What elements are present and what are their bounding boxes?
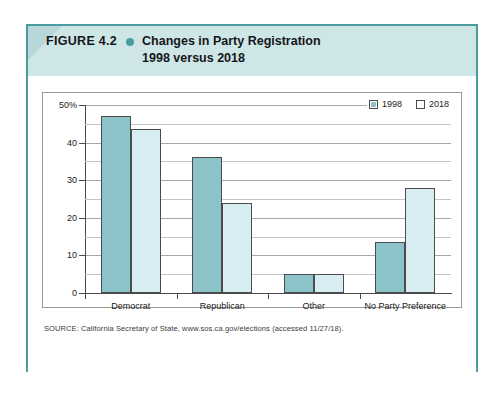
bar-other-2018: [314, 274, 344, 293]
x-axis-separator-tick: [85, 293, 86, 299]
source-note: SOURCE: California Secretary of State, w…: [44, 324, 344, 333]
y-axis-tick-label: 50%: [43, 100, 77, 110]
gridline-minor: [85, 124, 451, 125]
x-axis-category-label: Democrat: [111, 301, 150, 311]
bar-democrat-2018: [131, 129, 161, 293]
figure-body: 01020304050% 19982018 DemocratRepublican…: [28, 76, 476, 374]
y-axis-tick-label: 20: [43, 213, 77, 223]
figure-header: FIGURE 4.2 Changes in Party Registration…: [28, 26, 476, 76]
chart-plot-area: [85, 105, 451, 293]
chart-legend: 19982018: [367, 98, 451, 110]
figure-heading: FIGURE 4.2 Changes in Party Registration…: [46, 33, 470, 67]
y-axis-tick-label: 10: [43, 250, 77, 260]
y-axis-labels: 01020304050%: [43, 93, 77, 309]
x-axis-category-label: Other: [302, 301, 325, 311]
y-axis-tick-label: 40: [43, 138, 77, 148]
x-axis-category-label: Republican: [200, 301, 245, 311]
x-axis-separator-tick: [360, 293, 361, 299]
legend-label: 1998: [382, 99, 402, 109]
y-axis-tick-mark: [79, 105, 86, 106]
bar-other-1998: [284, 274, 314, 293]
figure-number-label: FIGURE 4.2: [46, 33, 117, 50]
chart-plot-frame: 01020304050% 19982018 DemocratRepublican…: [42, 92, 462, 308]
y-axis-tick-mark: [79, 255, 86, 256]
legend-label: 2018: [429, 99, 449, 109]
legend-swatch-icon: [416, 100, 425, 109]
x-axis-category-label: No Party Preference: [364, 301, 446, 311]
figure-title: Changes in Party Registration 1998 versu…: [142, 33, 321, 67]
figure-card: FIGURE 4.2 Changes in Party Registration…: [26, 24, 478, 372]
y-axis-tick-label: 30: [43, 175, 77, 185]
bar-republican-2018: [222, 203, 252, 293]
y-axis-tick-mark: [79, 180, 86, 181]
y-axis-tick-label: 0: [43, 288, 77, 298]
x-axis-separator-tick: [177, 293, 178, 299]
y-axis-tick-mark: [79, 143, 86, 144]
bar-no-party-preference-1998: [375, 242, 405, 294]
legend-swatch-icon: [369, 100, 378, 109]
bar-no-party-preference-2018: [405, 188, 435, 293]
legend-item-1998: 1998: [369, 99, 402, 109]
x-axis-separator-tick: [268, 293, 269, 299]
bullet-dot-icon: [126, 38, 134, 46]
bar-republican-1998: [192, 157, 222, 293]
legend-item-2018: 2018: [416, 99, 449, 109]
bar-democrat-1998: [101, 116, 131, 293]
y-axis-tick-mark: [79, 218, 86, 219]
